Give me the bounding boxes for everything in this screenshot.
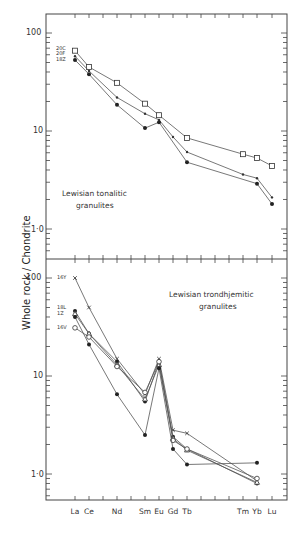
x-label-Tb: Tb (181, 507, 192, 516)
ree-chart: Whole rock / Chondrite Lewisian tonaliti… (0, 0, 303, 537)
series-label-18Z: 18Z (56, 56, 66, 62)
marker-18Z (73, 58, 77, 62)
marker-16V (185, 447, 190, 452)
series-line-20C (75, 51, 272, 166)
marker-20F (242, 173, 244, 175)
marker-20C (255, 156, 260, 161)
bottom-ytick-1: 1·0 (31, 470, 44, 479)
bottom-panel-label-line2: granulites (199, 302, 237, 311)
marker-18Z (157, 120, 161, 124)
marker-20F (74, 55, 76, 57)
marker-unlabeled (87, 342, 91, 346)
marker-20C (115, 80, 120, 85)
marker-20F (172, 136, 174, 138)
marker-16V (73, 326, 78, 331)
series-line-18Z (75, 60, 272, 204)
x-label-Sm: Sm (139, 507, 151, 516)
x-label-Eu: Eu (154, 507, 164, 516)
marker-unlabeled (185, 463, 189, 467)
marker-16V (143, 390, 148, 395)
series-label-16Y: 16Y (57, 274, 67, 280)
marker-18Z (115, 103, 119, 107)
data-series (73, 48, 275, 485)
marker-18Z (143, 126, 147, 130)
marker-20F (186, 151, 188, 153)
marker-20F (256, 177, 258, 179)
x-label-Ce: Ce (84, 507, 94, 516)
marker-16V (255, 476, 260, 481)
marker-16V (157, 359, 162, 364)
x-label-La: La (71, 507, 80, 516)
series-line-unlabeled (75, 317, 257, 465)
x-label-Tm: Tm (236, 507, 249, 516)
top-ytick-1: 1·0 (31, 225, 44, 234)
marker-18Z (185, 160, 189, 164)
axis-ticks (46, 14, 287, 500)
marker-16V (87, 335, 92, 340)
marker-unlabeled (115, 392, 119, 396)
x-label-Yb: Yb (251, 507, 262, 516)
marker-20F (88, 70, 90, 72)
series-label-16V: 16V (57, 324, 67, 330)
plot-frame (46, 14, 287, 500)
marker-unlabeled (255, 461, 259, 465)
marker-20F (271, 196, 273, 198)
bottom-ytick-10: 10 (33, 371, 43, 380)
marker-unlabeled (157, 366, 161, 370)
bottom-panel-label-line1: Lewisian trondhjemitic (169, 290, 254, 299)
marker-16V (115, 364, 120, 369)
marker-unlabeled (143, 433, 147, 437)
series-line-16V (75, 328, 257, 479)
top-ytick-100: 100 (26, 28, 41, 37)
marker-unlabeled (73, 315, 77, 319)
marker-18Z (255, 182, 259, 186)
x-label-Nd: Nd (112, 507, 123, 516)
marker-20F (144, 113, 146, 115)
marker-20C (157, 113, 162, 118)
series-label-1Z: 1Z (57, 310, 64, 316)
marker-20C (73, 48, 78, 53)
marker-18Z (270, 202, 274, 206)
marker-20C (143, 101, 148, 106)
axes-frames (46, 14, 287, 500)
marker-20C (270, 163, 275, 168)
marker-18Z (87, 72, 91, 76)
marker-20C (241, 152, 246, 157)
marker-unlabeled (171, 447, 175, 451)
top-panel-label-line2: granulites (76, 201, 114, 210)
series-line-18L (75, 311, 257, 483)
bottom-ytick-100: 100 (26, 273, 41, 282)
x-label-Lu: Lu (268, 507, 277, 516)
x-axis-labels: LaCeNdSmEuGdTbTmYbLu (71, 507, 277, 516)
x-label-Gd: Gd (168, 507, 179, 516)
marker-20F (116, 96, 118, 98)
top-ytick-10: 10 (33, 126, 43, 135)
top-panel-label-line1: Lewisian tonalitic (62, 189, 127, 198)
marker-20C (185, 135, 190, 140)
